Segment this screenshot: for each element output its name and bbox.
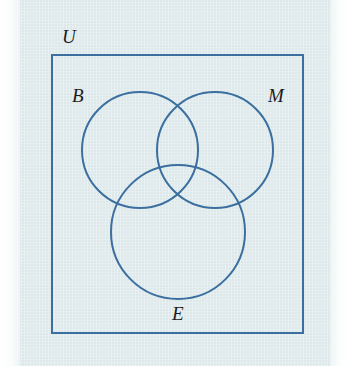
set-label-B: B	[72, 85, 84, 106]
set-label-M: M	[267, 85, 285, 106]
universal-set-label: U	[62, 26, 77, 47]
set-circle-B	[82, 92, 198, 208]
set-circle-M	[157, 92, 273, 208]
set-circle-E	[111, 165, 245, 299]
venn-diagram-canvas: U B M E	[0, 0, 350, 366]
set-label-E: E	[171, 303, 184, 324]
venn-diagram-figure: U B M E	[0, 0, 350, 366]
